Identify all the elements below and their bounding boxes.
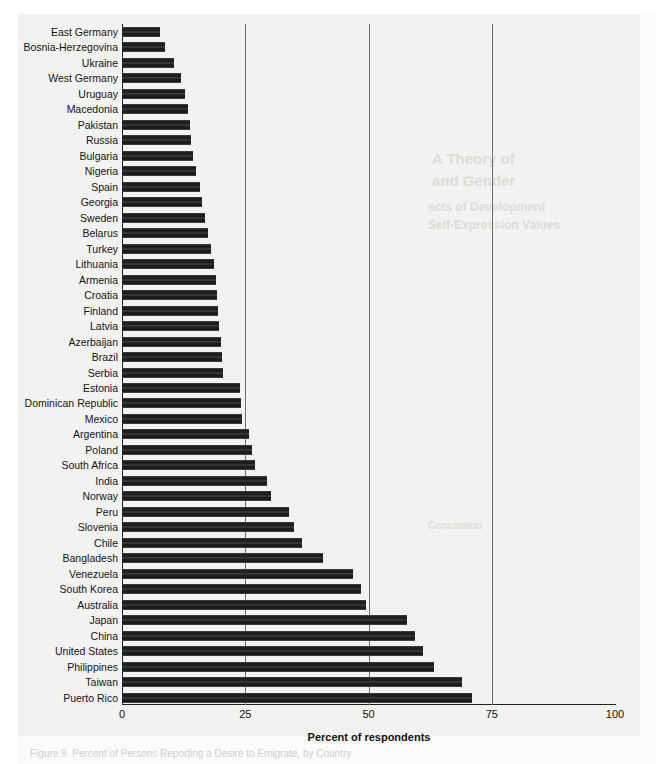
category-label: Bangladesh [2, 552, 118, 564]
x-tick-25: 25 [225, 708, 265, 720]
x-tick-100: 100 [595, 708, 635, 720]
category-label: Spain [2, 181, 118, 193]
category-label: Poland [2, 444, 118, 456]
category-label: United States [2, 645, 118, 657]
category-label: Lithuania [2, 258, 118, 270]
category-label: Azerbaijan [2, 336, 118, 348]
category-label: Peru [2, 506, 118, 518]
category-label: Georgia [2, 196, 118, 208]
category-label: East Germany [2, 26, 118, 38]
x-axis-title: Percent of respondents [122, 731, 616, 743]
category-label: Taiwan [2, 676, 118, 688]
x-tick-50: 50 [349, 708, 389, 720]
category-label: Argentina [2, 428, 118, 440]
bar [122, 693, 472, 703]
bar [122, 120, 190, 130]
category-label: Japan [2, 614, 118, 626]
bar [122, 476, 267, 486]
bar [122, 460, 255, 470]
category-label: Latvia [2, 320, 118, 332]
category-label: Nigeria [2, 165, 118, 177]
bar [122, 398, 241, 408]
bar-row [122, 690, 615, 707]
x-tick-75: 75 [472, 708, 512, 720]
bar [122, 73, 181, 83]
category-label: Armenia [2, 274, 118, 286]
category-label: Russia [2, 134, 118, 146]
category-label: Norway [2, 490, 118, 502]
category-label: Finland [2, 305, 118, 317]
category-label: Ukraine [2, 57, 118, 69]
category-label: Bosnia-Herzegovina [2, 41, 118, 53]
bar [122, 600, 366, 610]
bar [122, 445, 252, 455]
bar [122, 615, 407, 625]
category-label: Macedonia [2, 103, 118, 115]
bar [122, 166, 196, 176]
bar [122, 677, 462, 687]
bar [122, 538, 302, 548]
x-tick-0: 0 [102, 708, 142, 720]
bar [122, 259, 214, 269]
bar [122, 244, 211, 254]
category-label: Slovenia [2, 521, 118, 533]
category-label: Belarus [2, 227, 118, 239]
category-label: Philippines [2, 661, 118, 673]
bar [122, 104, 188, 114]
bar [122, 368, 223, 378]
bar [122, 491, 271, 501]
category-label: Croatia [2, 289, 118, 301]
bar [122, 275, 216, 285]
bar [122, 507, 289, 517]
horizontal-bar-chart: East GermanyBosnia-HerzegovinaUkraineWes… [0, 0, 656, 764]
category-label: Chile [2, 537, 118, 549]
category-label: Estonia [2, 382, 118, 394]
bar [122, 58, 174, 68]
bar [122, 383, 240, 393]
bar [122, 27, 160, 37]
bar [122, 42, 165, 52]
category-label: Bulgaria [2, 150, 118, 162]
bar [122, 306, 218, 316]
category-label-row: Puerto Rico [0, 690, 118, 707]
bar [122, 429, 249, 439]
bar [122, 337, 221, 347]
bar [122, 197, 202, 207]
category-label: Uruguay [2, 88, 118, 100]
category-label: South Africa [2, 459, 118, 471]
category-label: Sweden [2, 212, 118, 224]
bar [122, 182, 200, 192]
bar [122, 213, 205, 223]
bar [122, 321, 219, 331]
bar [122, 631, 415, 641]
bar [122, 89, 185, 99]
bar [122, 646, 423, 656]
bar [122, 569, 353, 579]
category-label: Australia [2, 599, 118, 611]
bar [122, 522, 294, 532]
bar [122, 151, 193, 161]
category-label: West Germany [2, 72, 118, 84]
category-label: Mexico [2, 413, 118, 425]
bar [122, 662, 434, 672]
category-label: Venezuela [2, 568, 118, 580]
category-label: China [2, 630, 118, 642]
bar [122, 553, 323, 563]
bar [122, 414, 242, 424]
bar [122, 584, 361, 594]
category-label: Puerto Rico [2, 692, 118, 704]
bar [122, 290, 217, 300]
bar [122, 135, 191, 145]
category-label: Serbia [2, 367, 118, 379]
bar [122, 228, 208, 238]
category-label: Brazil [2, 351, 118, 363]
category-label: Dominican Republic [2, 397, 118, 409]
category-label: India [2, 475, 118, 487]
plot-area [122, 24, 615, 705]
bar [122, 352, 222, 362]
category-label: Turkey [2, 243, 118, 255]
category-label: South Korea [2, 583, 118, 595]
category-label: Pakistan [2, 119, 118, 131]
